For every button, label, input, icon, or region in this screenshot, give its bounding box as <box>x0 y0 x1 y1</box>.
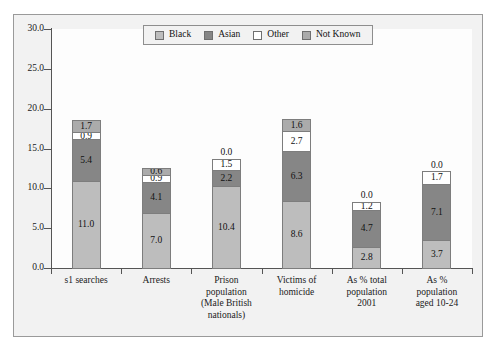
bar-segment-value: 1.5 <box>220 160 232 170</box>
x-axis-label-line: (Male British <box>183 298 269 310</box>
y-tick-mark <box>44 69 51 70</box>
bar-segment-value: 7.1 <box>431 208 443 218</box>
bar-segment-value: 6.3 <box>291 172 303 182</box>
bar-segment-other: 1.7 <box>422 171 451 185</box>
y-tick-mark <box>44 188 51 189</box>
bar-group: 1.70.95.411.00.60.94.17.00.01.52.210.41.… <box>51 29 472 268</box>
bar-segment-zero-label: 0.0 <box>212 148 241 159</box>
bar-segment-asian: 6.3 <box>282 151 311 201</box>
bar-column[interactable]: 0.01.52.210.4 <box>212 148 241 268</box>
x-tick-mark <box>402 268 403 274</box>
bar-segment-value: 4.7 <box>361 224 373 234</box>
bar-segment-notknown: 1.7 <box>72 120 101 134</box>
x-tick-mark <box>121 268 122 274</box>
bar-segment-asian: 7.1 <box>422 184 451 241</box>
y-tick-label: 5.0 <box>12 223 44 233</box>
bar-segment-value: 10.4 <box>218 223 235 233</box>
bar-segment-value: 0.0 <box>361 191 373 201</box>
x-tick-mark <box>51 268 52 274</box>
bar-segment-zero-label: 0.0 <box>422 160 451 171</box>
bar-segment-zero-label: 0.0 <box>352 191 381 202</box>
bar-segment-value: 7.0 <box>150 236 162 246</box>
y-tick-mark <box>44 268 51 269</box>
legend-item[interactable]: Other <box>253 30 289 40</box>
legend-label: Asian <box>218 30 240 40</box>
y-tick-mark <box>44 29 51 30</box>
bar-segment-black: 7.0 <box>142 213 171 269</box>
x-tick-mark <box>472 268 473 274</box>
chart-legend: BlackAsianOtherNot Known <box>143 25 373 45</box>
x-tick-mark <box>332 268 333 274</box>
x-axis-label-line: aged 10-24 <box>394 298 480 310</box>
y-tick-mark <box>44 228 51 229</box>
x-tick-mark <box>191 268 192 274</box>
bar-column[interactable]: 0.01.77.13.7 <box>422 160 451 268</box>
bar-segment-value: 1.7 <box>80 122 92 132</box>
bar-column[interactable]: 0.01.24.72.8 <box>352 191 381 268</box>
bar-column[interactable]: 1.62.76.38.6 <box>282 119 311 268</box>
bar-segment-value: 11.0 <box>78 220 94 230</box>
legend-item[interactable]: Asian <box>204 30 240 40</box>
bar-segment-black: 11.0 <box>72 181 101 269</box>
bar-segment-value: 2.7 <box>291 137 303 147</box>
bar-segment-value: 5.4 <box>80 156 92 166</box>
y-tick-mark <box>44 109 51 110</box>
y-tick-label: 25.0 <box>12 64 44 74</box>
legend-swatch-black <box>155 31 164 40</box>
y-tick-label: 10.0 <box>12 183 44 193</box>
legend-label: Other <box>267 30 289 40</box>
bar-segment-value: 1.6 <box>291 121 303 131</box>
bar-segment-value: 4.1 <box>150 193 162 203</box>
y-tick-label: 30.0 <box>12 24 44 34</box>
legend-item[interactable]: Not Known <box>302 30 361 40</box>
bar-segment-black: 10.4 <box>212 186 241 269</box>
bar-segment-value: 2.2 <box>220 174 232 184</box>
stacked-bar-chart: 0.05.010.015.020.025.030.0 1.70.95.411.0… <box>0 0 496 354</box>
bar-segment-black: 2.8 <box>352 247 381 269</box>
y-tick-label: 20.0 <box>12 104 44 114</box>
legend-swatch-notknown <box>302 31 311 40</box>
legend-label: Not Known <box>316 30 361 40</box>
bar-segment-value: 3.7 <box>431 250 443 260</box>
legend-swatch-other <box>253 31 262 40</box>
bar-segment-asian: 2.2 <box>212 170 241 188</box>
bar-segment-value: 8.6 <box>291 230 303 240</box>
y-tick-label: 15.0 <box>12 144 44 154</box>
x-axis-label-line: nationals) <box>183 310 269 322</box>
x-axis-label: As %populationaged 10-24 <box>394 275 480 310</box>
bar-segment-other: 2.7 <box>282 131 311 153</box>
bar-segment-black: 8.6 <box>282 201 311 270</box>
bar-column[interactable]: 0.60.94.17.0 <box>142 168 171 268</box>
bar-segment-asian: 4.7 <box>352 210 381 247</box>
x-axis-label-line: As % <box>394 275 480 287</box>
bar-column[interactable]: 1.70.95.411.0 <box>72 120 101 268</box>
y-tick-mark <box>44 149 51 150</box>
x-axis-label-line: population <box>394 287 480 299</box>
bar-segment-value: 1.7 <box>431 173 443 183</box>
bar-segment-value: 2.8 <box>361 253 373 263</box>
bar-segment-asian: 4.1 <box>142 182 171 215</box>
legend-swatch-asian <box>204 31 213 40</box>
bar-segment-value: 0.0 <box>220 148 232 158</box>
legend-item[interactable]: Black <box>155 30 191 40</box>
legend-label: Black <box>169 30 191 40</box>
bar-segment-asian: 5.4 <box>72 139 101 182</box>
x-tick-mark <box>262 268 263 274</box>
bar-segment-black: 3.7 <box>422 240 451 269</box>
bar-segment-value: 0.0 <box>431 161 443 171</box>
y-tick-label: 0.0 <box>12 263 44 273</box>
